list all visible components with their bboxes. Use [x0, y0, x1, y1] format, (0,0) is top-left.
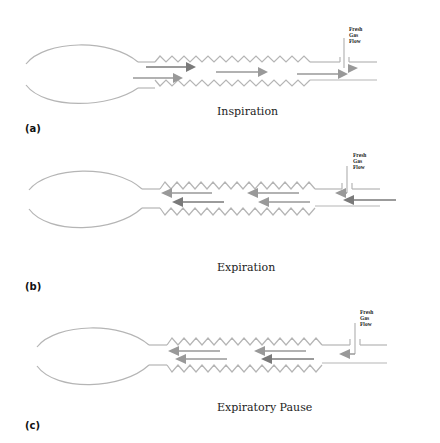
corrugated-tube-top	[167, 338, 322, 345]
fresh-gas-flow-label: Fresh Gas Flow	[349, 26, 362, 44]
flow-arrows-b	[161, 188, 396, 207]
panel-caption: Expiration	[217, 261, 275, 274]
reservoir-bag-top	[37, 328, 149, 347]
panel-caption: Expiratory Pause	[217, 401, 312, 414]
corrugated-tube-top	[155, 56, 310, 62]
reservoir-bag-bottom	[29, 208, 142, 228]
reservoir-bag-bottom	[37, 365, 149, 385]
fresh-gas-flow-label: Fresh Gas Flow	[353, 152, 366, 170]
breathing-circuit-diagram-c	[0, 290, 440, 443]
panel-caption: Inspiration	[217, 105, 278, 118]
panel-label: (c)	[25, 420, 40, 431]
reservoir-bag-top	[26, 45, 138, 64]
panel-b-expiration: Fresh Gas Flow Expiration (b)	[0, 140, 440, 290]
reservoir-bag-bottom	[26, 85, 138, 103]
corrugated-tube-bottom	[160, 208, 315, 215]
corrugated-tube-bottom	[155, 80, 310, 86]
panel-a-inspiration: Fresh Gas Flow Inspiration (a)	[0, 0, 440, 140]
panel-c-expiratory-pause: Fresh Gas Flow Expiratory Pause (c)	[0, 290, 440, 443]
panel-label: (a)	[25, 123, 41, 134]
reservoir-bag-top	[29, 171, 142, 190]
breathing-circuit-diagram-a	[0, 0, 440, 140]
corrugated-tube-bottom	[167, 365, 322, 372]
fresh-gas-flow-label: Fresh Gas Flow	[360, 309, 373, 327]
flow-arrows-c	[168, 346, 355, 364]
corrugated-tube-top	[160, 182, 315, 189]
